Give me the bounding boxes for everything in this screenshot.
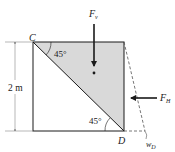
- angle-label-top: 45°: [54, 49, 67, 59]
- deformed-edge-dashed: [124, 42, 145, 131]
- force-vertical-label: Fv: [88, 8, 98, 20]
- displacement-label: wD: [146, 140, 156, 150]
- dimension-end-dot: [14, 42, 16, 44]
- angle-arc-bottom: [105, 118, 110, 131]
- point-label-d: D: [117, 135, 126, 146]
- force-horizontal-label: FH: [159, 92, 171, 104]
- wd-leader: [145, 131, 147, 139]
- dimension-end-dot: [14, 129, 16, 131]
- angle-label-bottom: 45°: [89, 116, 102, 126]
- dimension-label: 2 m: [8, 83, 23, 93]
- point-label-c: C: [29, 32, 36, 43]
- statics-diagram: 2 m 45° 45° C D Fv FH wD: [0, 0, 175, 152]
- centroid-dot: [93, 72, 96, 75]
